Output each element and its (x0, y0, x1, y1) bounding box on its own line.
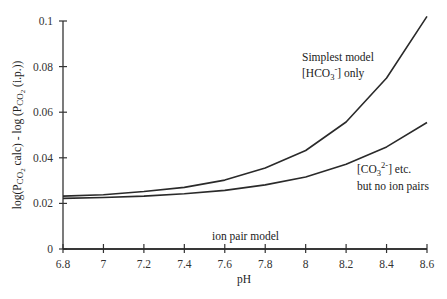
x-tick-label: 6.8 (56, 258, 71, 270)
annotation-simplest-model: Simplest model (302, 51, 374, 64)
x-axis-title: pH (237, 273, 251, 286)
x-tick-label: 7.2 (137, 258, 152, 270)
x-tick-label: 7.8 (258, 258, 273, 270)
annotation-hco3-only: [HCO3-] only (302, 64, 365, 82)
annotation-co3-etc: [CO32-] etc. (357, 160, 411, 178)
annotation-no-ion-pairs: but no ion pairs (357, 180, 429, 193)
x-tick-label: 7.4 (177, 258, 192, 270)
y-tick-label: 0.1 (39, 15, 54, 27)
y-tick-label: 0.08 (33, 61, 53, 73)
chart: 00.020.040.060.080.16.877.27.47.67.888.2… (0, 0, 447, 299)
x-tick-label: 8.4 (379, 258, 394, 270)
y-tick-label: 0 (47, 243, 53, 255)
x-tick-label: 7.6 (218, 258, 233, 270)
annotation-ion-pair-model: ion pair model (212, 230, 279, 243)
y-axis-title: log(PCO2 calc) - log (PCO2 (i.p.)) (11, 61, 27, 210)
x-tick-label: 8.2 (339, 258, 354, 270)
y-tick-label: 0.02 (33, 197, 53, 209)
y-tick-label: 0.06 (33, 106, 53, 118)
x-tick-label: 8.6 (420, 258, 435, 270)
x-tick-label: 8 (303, 258, 309, 270)
y-tick-label: 0.04 (33, 152, 53, 164)
x-tick-label: 7 (101, 258, 107, 270)
